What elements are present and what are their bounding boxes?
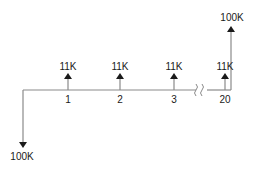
axis-break-icon bbox=[195, 84, 204, 96]
final-inflow-label: 100K bbox=[220, 13, 243, 23]
inflow-amount-label: 11K bbox=[165, 62, 182, 72]
inflow-amount-label: 11K bbox=[216, 62, 233, 72]
period-label: 20 bbox=[219, 95, 230, 105]
period-label: 3 bbox=[171, 95, 177, 105]
initial-outflow-label: 100K bbox=[10, 152, 33, 162]
period-label: 1 bbox=[65, 95, 71, 105]
cash-flow-diagram bbox=[0, 0, 254, 169]
inflow-amount-label: 11K bbox=[111, 62, 128, 72]
period-label: 2 bbox=[117, 95, 123, 105]
inflow-amount-label: 11K bbox=[59, 62, 76, 72]
